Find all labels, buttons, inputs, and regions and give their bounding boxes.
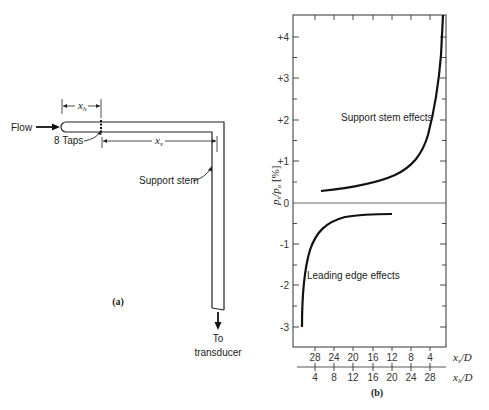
x-axis-label-xh: xh/D [452, 371, 472, 385]
support-stem-curve [321, 15, 443, 191]
x-tick-labels-xh: 4 8 12 16 20 24 28 [312, 372, 436, 383]
caption-a: (a) [112, 296, 124, 308]
x-ticks-xs [315, 347, 430, 351]
svg-text:24: 24 [405, 372, 417, 383]
flow-arrow-icon [36, 124, 60, 131]
svg-text:24: 24 [328, 352, 340, 363]
xh-dimension: xh [62, 99, 101, 118]
x-ticks-top [315, 15, 430, 20]
svg-text:0: 0 [283, 198, 289, 209]
support-stem-label: Support stem [139, 175, 198, 186]
xs-label: xs [154, 134, 163, 148]
chart: +4 +3 +2 +1 0 -1 -2 -3 ps/po [%] Support… [269, 15, 472, 399]
svg-text:+3: +3 [278, 73, 290, 84]
plot-frame [293, 15, 446, 347]
svg-text:4: 4 [427, 352, 433, 363]
svg-text:+2: +2 [278, 115, 290, 126]
to-label: To [213, 333, 224, 344]
svg-text:20: 20 [386, 372, 398, 383]
svg-text:-1: -1 [280, 239, 289, 250]
leading-edge-annotation: Leading edge effects [307, 270, 400, 281]
xh-label: xh [77, 99, 87, 113]
transducer-label: transducer [194, 347, 242, 358]
y-axis-label: ps/po [%] [269, 165, 283, 206]
svg-text:8: 8 [408, 352, 414, 363]
figure: xh xs Flow 8 Taps Support stem To transd… [0, 0, 489, 410]
svg-text:12: 12 [386, 352, 398, 363]
x-axis-label-xs: xs/D [452, 351, 472, 365]
to-transducer-arrow-icon [215, 312, 222, 330]
caption-b: (b) [371, 387, 383, 399]
xs-dimension: xs [102, 134, 217, 152]
svg-text:-3: -3 [280, 322, 289, 333]
taps-label: 8 Taps [54, 135, 83, 146]
y-ticks-left [293, 37, 299, 327]
support-stem-annotation: Support stem effects [341, 112, 433, 123]
svg-text:4: 4 [312, 372, 318, 383]
svg-text:-2: -2 [280, 280, 289, 291]
svg-text:+4: +4 [278, 32, 290, 43]
svg-text:28: 28 [424, 372, 436, 383]
svg-text:28: 28 [309, 352, 321, 363]
svg-text:+1: +1 [278, 156, 290, 167]
svg-text:20: 20 [347, 352, 359, 363]
y-ticks-right [440, 37, 446, 327]
svg-text:8: 8 [331, 372, 337, 383]
svg-text:16: 16 [367, 372, 379, 383]
probe-schematic: xh xs Flow 8 Taps Support stem To transd… [11, 99, 242, 358]
svg-text:16: 16 [367, 352, 379, 363]
svg-text:12: 12 [347, 372, 359, 383]
flow-label: Flow [11, 122, 33, 133]
x-tick-labels-xs: 28 24 20 16 12 8 4 [309, 352, 433, 363]
